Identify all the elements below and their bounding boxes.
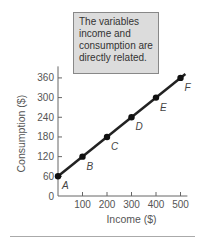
point-label: A <box>61 180 69 191</box>
x-tick-label: 500 <box>172 199 189 210</box>
data-point <box>79 153 85 159</box>
annotation-line: consumption are <box>79 40 158 52</box>
point-label: F <box>185 82 192 93</box>
point-label: D <box>136 121 143 132</box>
data-point <box>55 173 61 179</box>
annotation-line: directly related. <box>79 52 158 64</box>
x-tick-label: 100 <box>74 199 91 210</box>
data-point <box>104 134 110 140</box>
data-point <box>128 114 134 120</box>
y-tick-label: 120 <box>37 151 54 162</box>
data-point <box>177 75 183 81</box>
x-axis-label: Income ($) <box>106 213 156 225</box>
point-label: C <box>111 141 119 152</box>
x-tick-label: 400 <box>148 199 165 210</box>
divider <box>10 236 195 237</box>
y-tick-label: 300 <box>37 92 54 103</box>
y-axis-label: Consumption ($) <box>15 95 27 173</box>
annotation-line: income and <box>79 28 158 40</box>
y-tick-label: 0 <box>48 191 54 202</box>
x-tick-label: 200 <box>99 199 116 210</box>
point-label: E <box>160 102 167 113</box>
data-line <box>58 74 185 176</box>
annotation-box: The variables income and consumption are… <box>73 12 159 74</box>
y-tick-label: 360 <box>37 72 54 83</box>
x-tick-label: 300 <box>123 199 140 210</box>
data-point <box>153 94 159 100</box>
y-tick-label: 180 <box>37 131 54 142</box>
y-tick-label: 240 <box>37 112 54 123</box>
y-tick-label: 60 <box>43 171 55 182</box>
point-label: B <box>87 161 94 172</box>
annotation-line: The variables <box>79 16 158 28</box>
